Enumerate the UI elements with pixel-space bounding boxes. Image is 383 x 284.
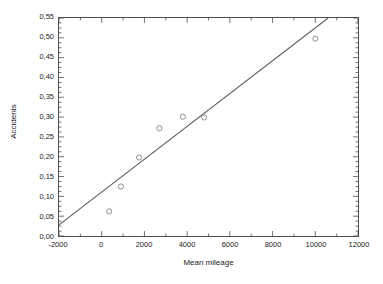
x-tick-label: -2000 — [48, 241, 67, 249]
axis-ticks — [59, 18, 358, 236]
y-tick-label: 0,20 — [39, 153, 54, 161]
y-tick-label: 0,30 — [39, 113, 54, 121]
scatter-plot-figure: 0,000,050,100,150,200,250,300,350,400,45… — [0, 0, 383, 284]
data-point — [137, 155, 142, 160]
y-tick-label: 0,25 — [39, 133, 54, 141]
x-axis-title: Mean mileage — [58, 258, 359, 267]
x-tick-label: 6000 — [222, 241, 239, 249]
data-point — [157, 126, 162, 131]
y-tick-label: 0,10 — [39, 193, 54, 201]
data-point — [107, 209, 112, 214]
y-tick-label: 0,05 — [39, 213, 54, 221]
plot-area — [58, 17, 359, 237]
x-tick-label: 2000 — [136, 241, 153, 249]
y-tick-label: 0,50 — [39, 33, 54, 41]
data-point — [180, 114, 185, 119]
x-tick-label: 10000 — [306, 241, 327, 249]
regression-line — [59, 18, 328, 225]
x-tick-label: 8000 — [265, 241, 282, 249]
y-tick-label: 0,55 — [39, 13, 54, 21]
x-tick-label: 0 — [99, 241, 103, 249]
data-point — [313, 36, 318, 41]
y-axis-title: Accidents — [9, 87, 18, 157]
plot-canvas — [59, 18, 358, 236]
x-tick-label: 4000 — [179, 241, 196, 249]
data-point — [202, 115, 207, 120]
y-tick-label: 0,40 — [39, 73, 54, 81]
y-tick-label: 0,35 — [39, 93, 54, 101]
x-tick-label: 12000 — [349, 241, 370, 249]
data-points — [107, 36, 318, 214]
y-tick-label: 0,45 — [39, 53, 54, 61]
data-point — [118, 184, 123, 189]
y-tick-label: 0,15 — [39, 173, 54, 181]
